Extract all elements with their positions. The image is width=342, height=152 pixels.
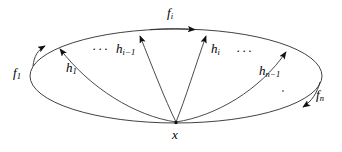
diagram-canvas (0, 0, 342, 152)
label-h-n-1-subscript: n−1 (266, 69, 281, 79)
label-f-1: f1 (13, 66, 21, 80)
label-f-n: fn (316, 88, 324, 102)
label-vertex-x: x (172, 128, 178, 141)
label-h-i-1-subscript: i−1 (123, 47, 136, 57)
label-f-n-subscript: n (320, 93, 324, 103)
arrow-h-i (176, 36, 206, 122)
label-f-i-subscript: i (171, 11, 174, 21)
arrow-h-i-1 (140, 36, 176, 122)
vertex-point-x (174, 121, 177, 124)
arrow-h-n-1 (176, 52, 286, 122)
arrow-f-i (150, 29, 195, 30)
label-h-i-subscript: i (218, 47, 221, 57)
label-f-i: fi (167, 6, 173, 20)
ellipsis-left: ··· (92, 42, 110, 55)
ellipsis-right: ··· (236, 44, 254, 57)
label-h-i: hi (211, 42, 220, 56)
accent-dot (282, 90, 284, 92)
label-h-n-1: hn−1 (259, 64, 280, 78)
label-f-1-subscript: 1 (17, 71, 21, 81)
label-h-1-subscript: 1 (73, 66, 77, 76)
label-h-1: h1 (66, 61, 77, 75)
label-h-i-1: hi−1 (116, 42, 135, 56)
loop-space-diagram: f1 fi fn h1 hi−1 hi hn−1 ··· ··· x (0, 0, 342, 152)
